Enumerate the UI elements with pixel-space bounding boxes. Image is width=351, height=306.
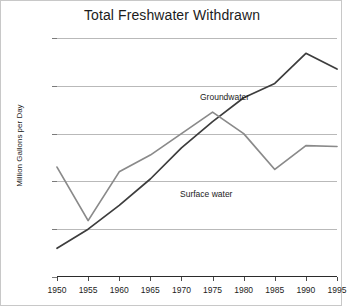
x-tick-mark: [306, 277, 307, 281]
x-tick-mark: [88, 277, 89, 281]
series-line-groundwater: [57, 53, 337, 248]
x-tick-mark: [119, 277, 120, 281]
x-tick-mark: [150, 277, 151, 281]
page-title: Total Freshwater Withdrawn: [1, 7, 343, 23]
x-tick-mark: [275, 277, 276, 281]
series-lines: [57, 38, 337, 277]
x-tick-mark: [244, 277, 245, 281]
series-label-groundwater: Groundwater: [200, 92, 249, 102]
plot-area: 01,0002,0003,0004,0005,000 1950195519601…: [57, 38, 337, 277]
series-line-surface-water: [57, 112, 337, 221]
x-tick-mark: [181, 277, 182, 281]
x-tick-mark: [213, 277, 214, 281]
series-label-surface-water: Surface water: [180, 189, 232, 199]
x-tick-mark: [57, 277, 58, 281]
x-tick-label: 1995: [317, 285, 351, 295]
x-tick-mark: [337, 277, 338, 281]
y-axis-title: Million Gallons per Day: [15, 86, 24, 206]
